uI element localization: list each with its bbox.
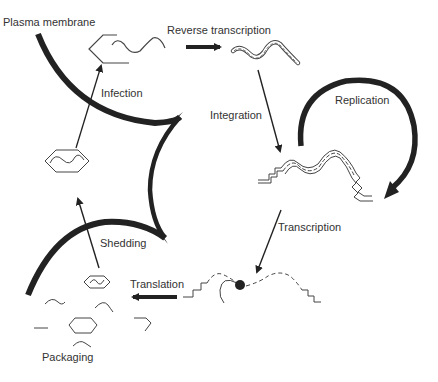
- budding-virion-icon: [45, 150, 89, 172]
- transcription-arrow: [257, 210, 281, 272]
- plasma-membrane-label: Plasma membrane: [3, 17, 95, 28]
- shedding-label: Shedding: [100, 238, 147, 249]
- integrated-provirus-icon: [258, 150, 373, 201]
- small-virion-icon: [84, 276, 110, 288]
- capsid-components-icon: [34, 299, 151, 347]
- packaging-label: Packaging: [42, 352, 93, 363]
- shedding-arrow: [78, 199, 99, 268]
- translation-label: Translation: [130, 279, 184, 290]
- plasma-membrane-icon: [28, 34, 183, 295]
- integration-label: Integration: [210, 110, 262, 121]
- reverse-transcription-label: Reverse transcription: [167, 25, 271, 36]
- replication-label: Replication: [335, 95, 389, 106]
- mrna-ribosome-icon: [183, 273, 321, 303]
- infection-label: Infection: [101, 88, 143, 99]
- virion-entering-icon: [89, 35, 165, 63]
- diagram-canvas: [0, 0, 438, 382]
- rna-dna-hybrid-icon: [233, 42, 298, 63]
- transcription-label: Transcription: [278, 222, 341, 233]
- retrovirus-life-cycle-diagram: Plasma membrane Reverse transcription In…: [0, 0, 438, 382]
